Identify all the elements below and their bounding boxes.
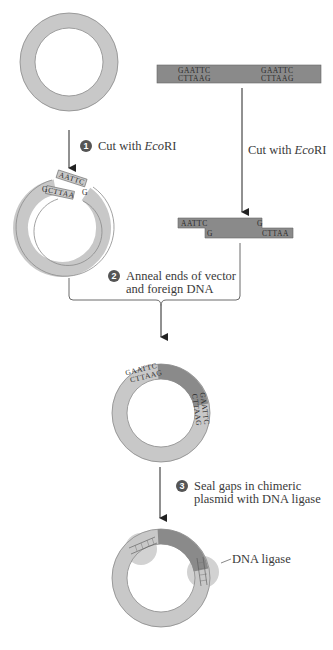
step-1-label: 1Cut with EcoRI bbox=[80, 140, 176, 153]
right-cut-label: Cut with EcoRI bbox=[248, 144, 326, 157]
foreign-dna-bar: GAATTC CTTAAG GAATTC CTTAAG bbox=[157, 65, 321, 83]
cut-vector-plasmid: AATTC CTTAA G G bbox=[16, 169, 114, 276]
cut-vector-g-left: G bbox=[42, 185, 48, 194]
step-2-label: 2Anneal ends of vector and foreign DNA bbox=[108, 270, 236, 296]
vector-plasmid bbox=[20, 13, 118, 111]
cut-vector-sticky-top: AATTC bbox=[58, 170, 86, 187]
cut-vector-g-right: G bbox=[82, 188, 88, 197]
svg-text:G: G bbox=[257, 219, 263, 228]
ligase-leader-line bbox=[221, 559, 231, 563]
step-3-label: 3Seal gaps in chimeric plasmid with DNA … bbox=[176, 480, 321, 506]
svg-text:CTTAA: CTTAA bbox=[262, 229, 289, 238]
svg-text:AATTC: AATTC bbox=[181, 219, 208, 228]
step-2-badge: 2 bbox=[108, 270, 120, 282]
cut-vector-bottom: CTTAA bbox=[47, 186, 75, 200]
chimeric-plasmid: GAATTC CTTAAG GAATTC CTTAAG bbox=[112, 360, 212, 462]
step-3-badge: 3 bbox=[176, 480, 188, 492]
dna-ligase-label: DNA ligase bbox=[232, 553, 291, 566]
svg-text:G: G bbox=[207, 229, 213, 238]
site-right-bottom: CTTAAG bbox=[261, 74, 294, 83]
sealed-plasmid bbox=[112, 529, 231, 627]
step-1-badge: 1 bbox=[80, 140, 92, 152]
site-left-bottom: CTTAAG bbox=[178, 74, 211, 83]
cut-foreign-fragment: AATTC G G CTTAA bbox=[178, 218, 293, 238]
